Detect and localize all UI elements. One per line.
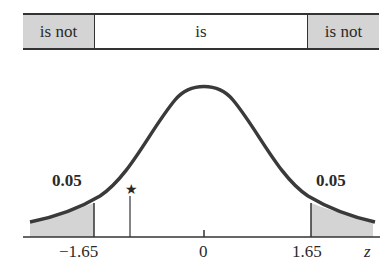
- left-tail-area-label: 0.05: [52, 171, 82, 191]
- axis-variable-label: z: [364, 242, 371, 262]
- normal-curve-plot: [0, 0, 389, 271]
- tick-label-neg: −1.65: [59, 242, 98, 262]
- tick-label-pos: 1.65: [292, 242, 322, 262]
- tick-label-zero: 0: [199, 242, 208, 262]
- bell-curve: [30, 87, 375, 223]
- star-marker-icon: ★: [125, 181, 138, 198]
- right-tail-area-label: 0.05: [316, 171, 346, 191]
